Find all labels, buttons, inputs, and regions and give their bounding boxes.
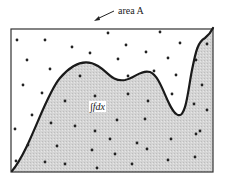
random-point: [89, 52, 92, 55]
random-point: [127, 93, 130, 96]
random-point: [159, 31, 162, 34]
random-point: [44, 39, 47, 42]
random-point: [109, 138, 112, 141]
random-point: [64, 163, 67, 166]
random-point: [44, 161, 47, 164]
random-point: [56, 145, 59, 148]
random-point: [64, 100, 67, 103]
random-point: [117, 58, 120, 61]
random-point: [170, 138, 173, 141]
random-point: [127, 75, 130, 78]
random-point: [41, 92, 44, 95]
random-point: [114, 153, 117, 156]
random-point: [167, 159, 170, 162]
random-point: [22, 84, 25, 87]
random-point: [50, 122, 53, 125]
random-point: [175, 74, 178, 77]
random-point: [167, 57, 170, 60]
random-point: [27, 144, 30, 147]
random-point: [194, 156, 197, 159]
random-point: [15, 160, 18, 163]
random-point: [146, 148, 149, 151]
random-point: [14, 128, 17, 131]
random-point: [147, 100, 150, 103]
random-point: [94, 95, 97, 98]
random-point: [171, 93, 174, 96]
integral-label: ∫fdx: [89, 101, 106, 112]
random-point: [125, 44, 128, 47]
random-point: [94, 130, 97, 133]
random-point: [153, 70, 156, 73]
random-point: [71, 46, 74, 49]
random-point: [195, 133, 198, 136]
random-point: [144, 118, 147, 121]
random-point: [193, 103, 196, 106]
random-point: [49, 68, 52, 71]
random-point: [199, 130, 202, 133]
random-point: [206, 43, 209, 46]
random-point: [136, 142, 139, 145]
random-point: [145, 51, 148, 54]
random-point: [107, 32, 110, 35]
monte-carlo-diagram: [0, 0, 227, 182]
random-point: [206, 109, 209, 112]
random-point: [195, 59, 198, 62]
random-point: [26, 59, 29, 62]
random-point: [179, 42, 182, 45]
random-point: [79, 75, 82, 78]
area-a-label: area A: [118, 5, 144, 16]
random-point: [116, 119, 119, 122]
random-point: [31, 114, 34, 117]
area-under-curve: [11, 28, 213, 172]
arrow-icon: [94, 11, 114, 21]
random-point: [131, 163, 134, 166]
random-point: [201, 84, 204, 87]
random-point: [16, 39, 19, 42]
random-point: [91, 149, 94, 152]
random-point: [96, 167, 99, 170]
random-point: [74, 125, 77, 128]
